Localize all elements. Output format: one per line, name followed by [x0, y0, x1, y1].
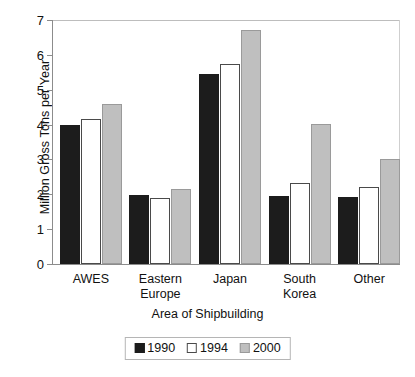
bar	[199, 74, 219, 264]
y-tick-mark	[47, 90, 52, 91]
bar	[102, 104, 122, 264]
legend-label: 2000	[253, 341, 281, 355]
bar	[241, 30, 261, 264]
black-square-icon	[134, 343, 144, 353]
bar-group	[60, 20, 122, 264]
y-tick-mark	[47, 229, 52, 230]
y-tick-label: 0	[37, 257, 44, 272]
bar	[311, 124, 331, 264]
bar	[150, 198, 170, 264]
y-tick-label: 2	[37, 187, 44, 202]
bar	[359, 187, 379, 264]
y-tick-label: 1	[37, 222, 44, 237]
gray-square-icon	[240, 343, 250, 353]
chart-legend: 199019942000	[124, 337, 290, 360]
legend-label: 1990	[147, 341, 175, 355]
bar	[81, 119, 101, 264]
bar	[60, 125, 80, 264]
bar-chart-figure: Million Gross Tons per Year 01234567 AWE…	[0, 0, 415, 377]
white-square-icon	[187, 343, 197, 353]
y-tick-mark	[47, 264, 52, 265]
legend-item: 2000	[240, 341, 281, 355]
y-tick-mark	[47, 159, 52, 160]
bar-group	[199, 20, 261, 264]
axis-bottom-spine	[52, 264, 400, 265]
bar	[338, 197, 358, 264]
x-axis-title: Area of Shipbuilding	[0, 307, 415, 321]
bar	[171, 189, 191, 264]
y-tick-label: 5	[37, 82, 44, 97]
bar	[129, 195, 149, 264]
axis-left-spine	[52, 20, 53, 264]
bar	[380, 159, 400, 264]
bar	[269, 196, 289, 264]
bar	[220, 64, 240, 264]
y-tick-mark	[47, 20, 52, 21]
y-tick-mark	[47, 194, 52, 195]
x-tick-label: Other	[314, 272, 415, 287]
legend-label: 1994	[200, 341, 228, 355]
y-tick-label: 7	[37, 13, 44, 28]
y-tick-label: 3	[37, 152, 44, 167]
y-tick-label: 6	[37, 47, 44, 62]
legend-item: 1990	[134, 341, 175, 355]
y-tick-mark	[47, 125, 52, 126]
y-tick-mark	[47, 55, 52, 56]
legend-item: 1994	[187, 341, 228, 355]
bar-group	[269, 20, 331, 264]
y-tick-label: 4	[37, 117, 44, 132]
bar-group	[129, 20, 191, 264]
plot-area: 01234567 AWESEasternEuropeJapanSouthKore…	[52, 20, 400, 264]
bar	[290, 183, 310, 264]
bar-group	[338, 20, 400, 264]
